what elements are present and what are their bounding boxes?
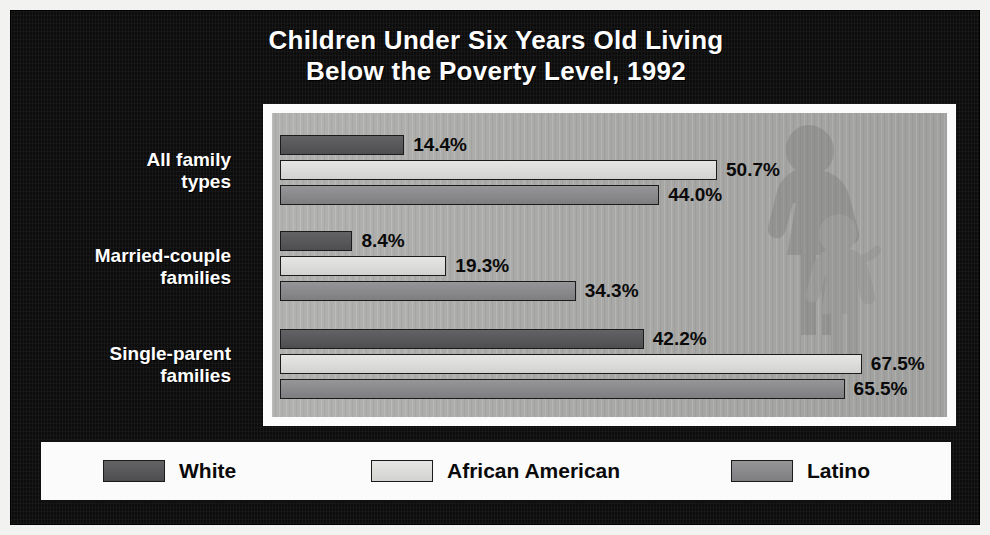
plot-frame: 14.4%50.7%44.0%8.4%19.3%34.3%42.2%67.5%6… <box>263 104 956 426</box>
legend-item-label: Latino <box>807 459 870 483</box>
chart-legend: WhiteAfrican AmericanLatino <box>39 440 953 502</box>
category-label-line: families <box>10 267 231 289</box>
category-label-all-family-types: All familytypes <box>10 149 231 193</box>
bar-african-american <box>280 354 862 374</box>
legend-item-label: White <box>179 459 236 483</box>
category-label-married-couple-families: Married-couplefamilies <box>10 245 231 289</box>
bar-value-label: 8.4% <box>361 231 404 251</box>
bar-value-label: 50.7% <box>726 160 780 180</box>
mother-and-child-silhouette-icon <box>725 119 905 371</box>
legend-swatch-african-american <box>371 460 433 482</box>
bar-latino <box>280 379 845 399</box>
legend-item-label: African American <box>447 459 620 483</box>
bar-value-label: 67.5% <box>871 354 925 374</box>
legend-item-white[interactable]: White <box>103 459 236 483</box>
bar-white <box>280 329 644 349</box>
bar-latino <box>280 185 659 205</box>
category-label-line: families <box>10 365 231 387</box>
category-label-single-parent-families: Single-parentfamilies <box>10 343 231 387</box>
bar-value-label: 19.3% <box>455 256 509 276</box>
page-title: Children Under Six Years Old Living Belo… <box>11 25 980 86</box>
legend-swatch-white <box>103 460 165 482</box>
legend-item-latino[interactable]: Latino <box>731 459 870 483</box>
category-label-line: types <box>10 171 231 193</box>
bar-value-label: 34.3% <box>585 281 639 301</box>
chart-poster: Children Under Six Years Old Living Belo… <box>10 10 980 525</box>
category-label-line: Married-couple <box>10 245 231 267</box>
bar-value-label: 14.4% <box>413 135 467 155</box>
plot-area: 14.4%50.7%44.0%8.4%19.3%34.3%42.2%67.5%6… <box>272 113 947 417</box>
bar-value-label: 44.0% <box>668 185 722 205</box>
title-line-1: Children Under Six Years Old Living <box>11 25 980 56</box>
legend-item-african-american[interactable]: African American <box>371 459 620 483</box>
bar-african-american <box>280 160 717 180</box>
bar-value-label: 65.5% <box>854 379 908 399</box>
bar-white <box>280 135 404 155</box>
bar-african-american <box>280 256 446 276</box>
bar-latino <box>280 281 576 301</box>
legend-swatch-latino <box>731 460 793 482</box>
title-line-2: Below the Poverty Level, 1992 <box>11 56 980 87</box>
category-label-line: All family <box>10 149 231 171</box>
category-label-line: Single-parent <box>10 343 231 365</box>
bar-value-label: 42.2% <box>653 329 707 349</box>
bar-white <box>280 231 352 251</box>
